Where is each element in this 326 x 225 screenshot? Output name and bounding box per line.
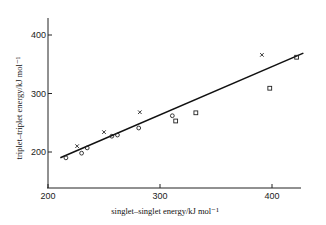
square-marker xyxy=(194,111,198,115)
circle-marker xyxy=(137,126,141,130)
y-axis: 200300400 xyxy=(31,18,52,188)
x-axis: 200300400 xyxy=(40,184,301,201)
cross-marker xyxy=(75,144,79,148)
regression-line xyxy=(60,53,303,158)
x-tick-label: 300 xyxy=(152,191,167,201)
y-tick-label: 200 xyxy=(31,147,46,157)
square-marker xyxy=(268,86,272,90)
y-tick-label: 400 xyxy=(31,30,46,40)
circle-marker xyxy=(80,151,84,155)
y-axis-title: triplet–triplet energy/kJ mol⁻¹ xyxy=(14,56,24,159)
square-marker xyxy=(174,119,178,123)
cross-marker xyxy=(260,53,264,57)
x-tick-label: 200 xyxy=(40,191,55,201)
x-tick-label: 400 xyxy=(264,191,279,201)
circle-marker xyxy=(64,156,68,160)
circle-marker xyxy=(170,114,174,118)
y-tick-label: 300 xyxy=(31,89,46,99)
x-axis-title: singlet–singlet energy/kJ mol⁻¹ xyxy=(111,206,219,216)
scatter-chart: 200300400 200300400 singlet–singlet ener… xyxy=(0,0,326,225)
cross-marker xyxy=(102,130,106,134)
cross-marker xyxy=(138,110,142,114)
